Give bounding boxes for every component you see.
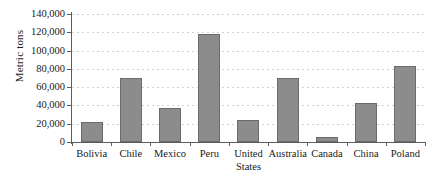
x-tick-label: Australia <box>268 147 307 160</box>
x-tick-label: Bolivia <box>72 147 111 160</box>
x-tick-mark <box>150 142 151 146</box>
y-tick-label: 80,000 <box>8 64 65 74</box>
x-tick-label-line: Mexico <box>154 148 186 159</box>
bar-chart: Metric tons 020,00040,00060,00080,000100… <box>0 0 431 182</box>
x-tick-label-line: States <box>229 160 268 173</box>
x-tick-label: UnitedStates <box>229 147 268 173</box>
bars-group <box>72 14 425 142</box>
bar-slot <box>229 14 268 142</box>
x-tick-label-line: United <box>234 148 263 159</box>
y-tick-label: 140,000 <box>8 9 65 19</box>
bar[interactable] <box>355 103 377 142</box>
y-tick-label: 0 <box>8 137 65 147</box>
x-tick-mark <box>111 142 112 146</box>
x-tick-label: Peru <box>190 147 229 160</box>
x-tick-label: Mexico <box>150 147 189 160</box>
bar-slot <box>347 14 386 142</box>
y-tick-label: 20,000 <box>8 119 65 129</box>
x-tick-label-line: Peru <box>200 148 219 159</box>
x-axis-tick-labels: BoliviaChileMexicoPeruUnitedStatesAustra… <box>72 147 425 182</box>
bar[interactable] <box>198 34 220 142</box>
x-tick-mark <box>347 142 348 146</box>
bar-slot <box>268 14 307 142</box>
x-tick-mark <box>386 142 387 146</box>
bar[interactable] <box>120 78 142 142</box>
y-axis-tick-labels: 020,00040,00060,00080,000100,000120,0001… <box>8 0 65 182</box>
bar-slot <box>190 14 229 142</box>
y-tick-label: 120,000 <box>8 27 65 37</box>
x-tick-label: Chile <box>111 147 150 160</box>
plot-area <box>72 14 425 142</box>
x-tick-label-line: Australia <box>268 148 307 159</box>
x-tick-mark <box>229 142 230 146</box>
x-tick-mark <box>72 142 73 146</box>
x-tick-label: Poland <box>386 147 425 160</box>
x-tick-mark <box>190 142 191 146</box>
x-tick-label-line: Bolivia <box>76 148 107 159</box>
bar-slot <box>386 14 425 142</box>
bar[interactable] <box>81 122 103 142</box>
x-tick-mark <box>268 142 269 146</box>
y-tick-label: 40,000 <box>8 100 65 110</box>
y-tick-label: 60,000 <box>8 82 65 92</box>
x-tick-label-line: Canada <box>311 148 343 159</box>
y-tick-label: 100,000 <box>8 46 65 56</box>
x-tick-label-line: Chile <box>119 148 142 159</box>
x-tick-mark <box>425 142 426 146</box>
bar[interactable] <box>159 108 181 142</box>
x-tick-label-line: China <box>354 148 379 159</box>
bar-slot <box>111 14 150 142</box>
x-tick-mark <box>307 142 308 146</box>
bar[interactable] <box>277 78 299 142</box>
bar-slot <box>150 14 189 142</box>
x-tick-label-line: Poland <box>391 148 420 159</box>
x-tick-label: Canada <box>307 147 346 160</box>
bar-slot <box>307 14 346 142</box>
bar[interactable] <box>394 66 416 142</box>
x-tick-label: China <box>347 147 386 160</box>
bar[interactable] <box>237 120 259 142</box>
bar-slot <box>72 14 111 142</box>
